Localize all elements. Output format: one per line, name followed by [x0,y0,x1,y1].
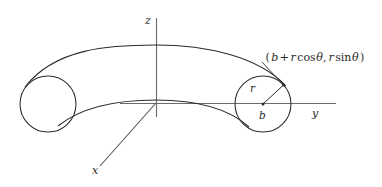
parametric-point-label: (b+rcosθ,rsinθ) [264,52,366,63]
point-label-theta-sin: θ [351,51,358,64]
point-label-r-sin: r [328,51,333,64]
point-label-plus: + [278,51,290,64]
torus-diagram-figure: z y x r b (b+rcosθ,rsinθ) [0,0,382,187]
point-label-leader-line [262,62,284,85]
center-label: b [259,110,266,121]
point-label-sin: sin [334,51,352,64]
point-label-close-paren: ) [359,51,366,64]
point-label-cos: cos [296,51,316,64]
y-axis-label: y [312,108,318,119]
radius-segment-line [263,85,284,104]
x-axis-label: x [92,165,98,176]
z-axis-label: z [145,15,151,26]
point-label-theta-cos: θ [316,51,323,64]
center-point-dot [262,103,265,106]
diagram-canvas [0,0,382,187]
radius-label: r [250,83,255,94]
x-axis-line [100,103,156,166]
torus-inner-arc [58,100,249,127]
left-cross-section-circle [20,76,76,132]
